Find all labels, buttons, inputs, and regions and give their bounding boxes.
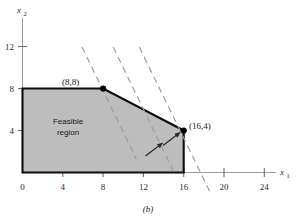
y-axis-title: x — [16, 5, 21, 15]
region-label-line-1: Feasible — [53, 117, 84, 126]
x-tick-label-12: 12 — [139, 182, 148, 192]
y-axis-title-subscript: 2 — [24, 10, 27, 17]
vertex-label-8-8: (8,8) — [62, 77, 79, 87]
x-axis-title: x — [279, 167, 284, 177]
y-tick-label-12: 12 — [5, 42, 14, 52]
x-axis-title-subscript: 1 — [287, 172, 290, 179]
lp-feasible-region-figure: 4 8 12 0 4 8 12 16 20 24 x 2 x 1 — [0, 0, 297, 220]
x-tick-label-20: 20 — [220, 182, 230, 192]
figure-caption: (b) — [143, 204, 154, 214]
x-tick-label-24: 24 — [260, 182, 270, 192]
figure-canvas: 4 8 12 0 4 8 12 16 20 24 x 2 x 1 — [0, 0, 297, 220]
y-tick-label-8: 8 — [10, 84, 15, 94]
region-label-line-2: region — [57, 128, 79, 137]
x-tick-label-4: 4 — [61, 182, 66, 192]
x-tick-label-0: 0 — [20, 182, 25, 192]
x-tick-label-16: 16 — [179, 182, 189, 192]
y-tick-label-4: 4 — [10, 126, 15, 136]
vertex-label-16-4: (16,4) — [189, 121, 211, 131]
vertex-dot-8-8 — [100, 85, 106, 91]
vertex-dot-16-4 — [181, 127, 187, 133]
x-tick-label-8: 8 — [101, 182, 106, 192]
